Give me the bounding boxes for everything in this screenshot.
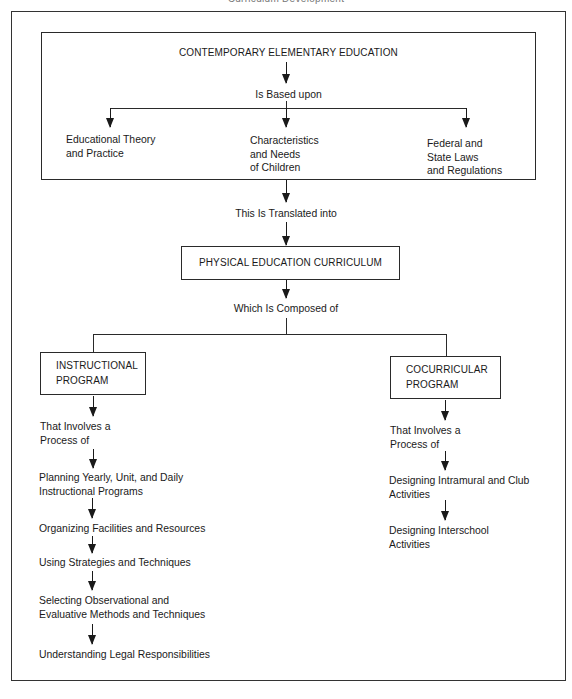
arrow-down-icon: [445, 451, 446, 470]
step-legal: Understanding Legal Responsibilities: [39, 648, 210, 662]
is-based-upon-label: Is Based upon: [41, 88, 536, 102]
arrow-down-icon: [286, 62, 287, 83]
basis-characteristics: Characteristics and Needs of Children: [250, 134, 319, 175]
arrow-down-icon: [286, 108, 287, 127]
cocurricular-program-title: COCURRICULAR PROGRAM: [406, 363, 488, 391]
arrow-down-icon: [92, 498, 93, 518]
step-organizing: Organizing Facilities and Resources: [39, 522, 205, 536]
step-evaluating: Selecting Observational and Evaluative M…: [39, 594, 205, 621]
arrow-down-icon: [445, 400, 446, 420]
arrow-down-icon: [92, 624, 93, 644]
running-head: Curriculum Development: [0, 0, 572, 4]
arrow-down-icon: [92, 536, 93, 553]
arrow-down-icon: [110, 108, 111, 127]
arrow-down-icon: [466, 108, 467, 127]
basis-federal-state-laws: Federal and State Laws and Regulations: [427, 137, 502, 178]
branch-line: [110, 108, 467, 109]
step-strategies: Using Strategies and Techniques: [39, 556, 191, 570]
translated-into-label: This Is Translated into: [141, 207, 431, 221]
instructional-process-label: That Involves a Process of: [40, 420, 110, 447]
arrow-down-icon: [286, 222, 287, 245]
step-planning: Planning Yearly, Unit, and Daily Instruc…: [39, 471, 183, 498]
cocurricular-process-label: That Involves a Process of: [390, 424, 460, 451]
composed-of-label: Which Is Composed of: [141, 302, 431, 316]
step-intramural: Designing Intramural and Club Activities: [389, 474, 529, 501]
arrow-down-icon: [93, 396, 94, 416]
arrow-down-icon: [445, 500, 446, 520]
arrow-down-icon: [93, 449, 94, 468]
arrow-down-icon: [286, 180, 287, 202]
arrow-down-icon: [92, 571, 93, 590]
basis-educational-theory: Educational Theory and Practice: [66, 133, 155, 160]
pe-curriculum-title: PHYSICAL EDUCATION CURRICULUM: [181, 256, 400, 270]
program-branch-line: [93, 334, 447, 335]
connector-line: [446, 334, 447, 357]
contemporary-education-title: CONTEMPORARY ELEMENTARY EDUCATION: [41, 46, 536, 60]
arrow-down-icon: [286, 280, 287, 298]
connector-line: [286, 318, 287, 335]
instructional-program-title: INSTRUCTIONAL PROGRAM: [56, 359, 138, 387]
step-interschool: Designing Interschool Activities: [389, 524, 489, 551]
connector-line: [93, 334, 94, 353]
